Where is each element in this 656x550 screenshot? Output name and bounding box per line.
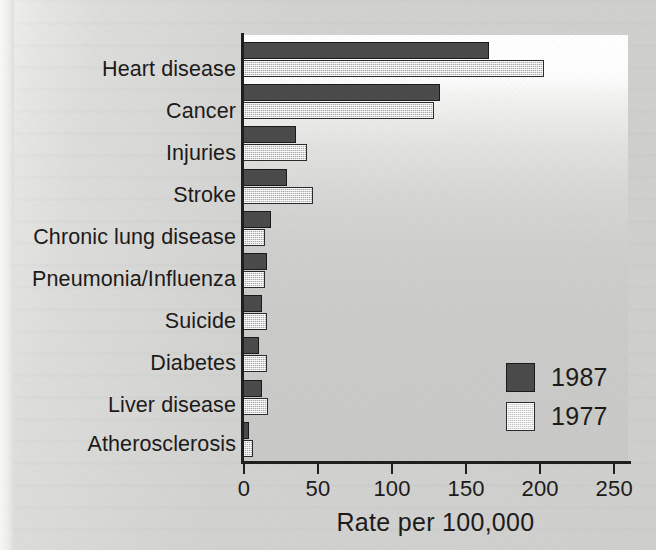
scanned-page: Heart disease Cancer Injuries Stroke Chr… [0, 0, 656, 550]
bar-1977-stroke [243, 187, 313, 204]
category-label-3: Stroke [173, 183, 236, 208]
legend-label-1977: 1977 [551, 402, 608, 431]
legend-entry-1987: 1987 [506, 358, 608, 397]
bar-1987-liver-disease [243, 380, 262, 397]
bar-1977-injuries [243, 144, 307, 161]
category-label-6: Suicide [165, 309, 236, 334]
bar-1987-chronic-lung-disease [243, 211, 271, 228]
x-tick-label-100: 100 [373, 476, 410, 502]
category-label-5: Pneumonia/Influenza [32, 267, 236, 292]
bar-1977-atherosclerosis [243, 440, 253, 457]
bar-1987-diabetes [243, 337, 259, 354]
x-tick-0 [243, 464, 245, 474]
legend-swatch-icon-1977 [506, 402, 535, 431]
category-label-1: Cancer [166, 99, 236, 124]
x-tick-150 [465, 464, 467, 474]
x-tick-label-200: 200 [521, 476, 558, 502]
bar-chart: Heart disease Cancer Injuries Stroke Chr… [0, 0, 656, 550]
bar-1987-heart-disease [243, 42, 489, 59]
bar-1977-chronic-lung-disease [243, 229, 265, 246]
bar-1987-suicide [243, 295, 262, 312]
x-tick-label-250: 250 [596, 476, 633, 502]
bar-1977-heart-disease [243, 60, 544, 77]
legend-label-1987: 1987 [551, 363, 608, 392]
bar-1977-liver-disease [243, 398, 268, 415]
x-tick-label-50: 50 [306, 476, 331, 502]
legend-entry-1977: 1977 [506, 397, 608, 436]
y-axis-line [241, 33, 244, 464]
x-tick-50 [317, 464, 319, 474]
x-tick-label-150: 150 [447, 476, 484, 502]
legend-swatch-icon-1987 [506, 363, 535, 392]
bar-1977-suicide [243, 313, 267, 330]
bar-1977-cancer [243, 102, 434, 119]
category-label-2: Injuries [166, 141, 236, 166]
category-label-8: Liver disease [108, 393, 236, 418]
x-axis-line [241, 461, 631, 464]
x-tick-label-0: 0 [238, 476, 250, 502]
category-label-9: Atherosclerosis [88, 432, 236, 457]
bar-1977-diabetes [243, 355, 267, 372]
category-label-0: Heart disease [102, 57, 236, 82]
x-tick-100 [391, 464, 393, 474]
bar-1987-pneumonia-influenza [243, 253, 267, 270]
bar-1987-cancer [243, 84, 440, 101]
bar-1987-injuries [243, 126, 296, 143]
bar-1987-stroke [243, 169, 287, 186]
x-tick-250 [613, 464, 615, 474]
category-label-7: Diabetes [150, 351, 236, 376]
bar-1977-pneumonia-influenza [243, 271, 265, 288]
category-label-4: Chronic lung disease [33, 225, 236, 250]
legend: 1987 1977 [506, 358, 608, 436]
x-axis-title: Rate per 100,000 [243, 508, 628, 537]
x-tick-200 [539, 464, 541, 474]
